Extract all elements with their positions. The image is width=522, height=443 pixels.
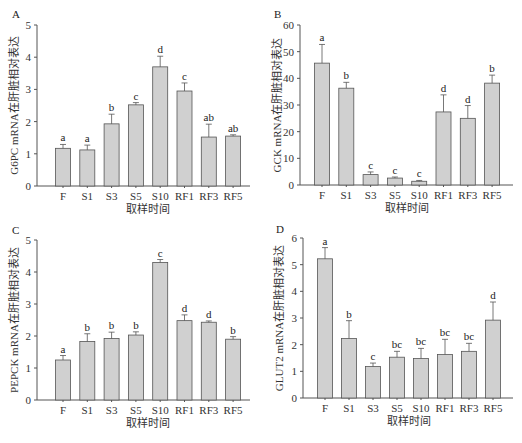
y-axis-title: G6PC mRNA在肝脏相对表达 xyxy=(7,36,20,174)
x-tick-label: F xyxy=(60,190,66,202)
significance-label: c xyxy=(392,164,397,176)
y-tick-label: 3 xyxy=(26,83,32,95)
x-tick-label: F xyxy=(60,404,66,416)
x-tick-label: S1 xyxy=(81,190,93,202)
bar-s10 xyxy=(414,359,429,398)
x-tick-label: S1 xyxy=(343,402,355,414)
y-tick-label: 1 xyxy=(26,148,32,160)
y-tick-label: 5 xyxy=(26,19,32,31)
bar-s3 xyxy=(366,367,381,398)
y-tick-label: 2 xyxy=(292,339,298,351)
y-tick-label: 4 xyxy=(26,266,32,278)
significance-label: bc xyxy=(392,338,403,350)
significance-label: c xyxy=(368,159,373,171)
x-tick-label: RF5 xyxy=(224,404,243,416)
panel-letter: C xyxy=(12,224,19,236)
y-axis-title: GCK mRNA在肝脏相对表达 xyxy=(270,38,283,173)
y-tick-label: 0 xyxy=(26,180,32,192)
x-axis-title: 取样时间 xyxy=(385,201,429,214)
y-tick-label: 0 xyxy=(26,394,32,406)
bar-rf1 xyxy=(177,321,192,400)
significance-label: c xyxy=(133,90,138,102)
bar-f xyxy=(318,259,333,398)
x-tick-label: S5 xyxy=(389,189,401,201)
x-tick-label: RF5 xyxy=(483,189,502,201)
x-tick-label: S1 xyxy=(81,404,93,416)
bar-s10 xyxy=(153,262,168,400)
bar-s5 xyxy=(128,105,143,186)
figure: A012345G6PC mRNA在肝脏相对表达aFaS1bS3cS5dS10cR… xyxy=(0,0,522,443)
y-tick-label: 1 xyxy=(26,362,32,374)
x-tick-label: RF5 xyxy=(224,190,243,202)
x-tick-label: S3 xyxy=(106,404,118,416)
significance-label: b xyxy=(346,308,352,320)
bar-rf5 xyxy=(226,136,241,186)
significance-label: a xyxy=(85,132,90,144)
bar-s1 xyxy=(342,339,357,398)
x-tick-label: RF3 xyxy=(458,189,477,201)
bar-rf3 xyxy=(462,351,477,398)
significance-label: b xyxy=(109,101,115,113)
bar-rf1 xyxy=(177,91,192,186)
x-tick-label: RF3 xyxy=(460,402,479,414)
y-tick-label: 60 xyxy=(283,19,295,31)
significance-label: b xyxy=(489,62,495,74)
y-tick-label: 4 xyxy=(292,285,298,297)
bar-s3 xyxy=(104,124,119,186)
significance-label: bc xyxy=(440,326,451,338)
y-tick-label: 4 xyxy=(26,51,32,63)
y-tick-label: 5 xyxy=(292,259,298,271)
x-tick-label: F xyxy=(319,189,325,201)
x-tick-label: S5 xyxy=(130,190,142,202)
bar-rf1 xyxy=(438,355,453,398)
significance-label: b xyxy=(109,319,115,331)
panel-letter: B xyxy=(274,8,281,20)
x-tick-label: RF3 xyxy=(199,404,218,416)
significance-label: bc xyxy=(416,335,427,347)
significance-label: d xyxy=(206,308,212,320)
significance-label: ab xyxy=(228,122,239,134)
panel-d: D0123456GLUT2 mRNA在肝脏相对表达aFbS1cS3bcS5bcS… xyxy=(272,223,513,427)
bar-f xyxy=(315,63,330,185)
x-tick-label: S10 xyxy=(411,189,429,201)
significance-label: c xyxy=(371,350,376,362)
x-tick-label: RF5 xyxy=(484,402,503,414)
significance-label: ab xyxy=(204,111,215,123)
x-tick-label: RF1 xyxy=(175,404,194,416)
x-tick-label: S3 xyxy=(365,189,377,201)
y-tick-label: 30 xyxy=(283,99,295,111)
bar-rf1 xyxy=(436,112,451,185)
x-tick-label: RF1 xyxy=(434,189,453,201)
y-tick-label: 20 xyxy=(283,126,295,138)
y-tick-label: 40 xyxy=(283,72,295,84)
significance-label: b xyxy=(230,324,236,336)
panel-letter: A xyxy=(12,8,20,20)
panel-b: B0102030405060GCK mRNA在肝脏相对表达aFbS1cS3cS5… xyxy=(270,8,513,214)
y-tick-label: 6 xyxy=(292,232,298,244)
significance-label: b xyxy=(344,69,350,81)
bar-s5 xyxy=(128,335,143,400)
bar-f xyxy=(56,148,71,186)
x-tick-label: S10 xyxy=(152,404,170,416)
significance-label: a xyxy=(323,235,328,247)
y-tick-label: 0 xyxy=(292,392,298,404)
significance-label: b xyxy=(133,319,139,331)
x-tick-label: S3 xyxy=(367,402,379,414)
panel-c: C012345PEPCK mRNA在肝脏相对表达aFbS1bS3bS5cS10d… xyxy=(7,224,250,429)
y-tick-label: 5 xyxy=(26,234,32,246)
bar-s5 xyxy=(387,178,402,185)
y-tick-label: 1 xyxy=(292,365,298,377)
significance-label: a xyxy=(320,31,325,43)
bar-s1 xyxy=(80,150,95,186)
x-tick-label: S1 xyxy=(340,189,352,201)
bar-s1 xyxy=(80,341,95,400)
bar-f xyxy=(56,360,71,400)
bar-s3 xyxy=(363,175,378,185)
bar-s5 xyxy=(390,357,405,398)
x-tick-label: S5 xyxy=(130,404,142,416)
bar-s10 xyxy=(412,181,427,185)
x-tick-label: S3 xyxy=(106,190,118,202)
significance-label: bc xyxy=(464,330,475,342)
significance-label: c xyxy=(158,247,163,259)
significance-label: c xyxy=(417,167,422,179)
